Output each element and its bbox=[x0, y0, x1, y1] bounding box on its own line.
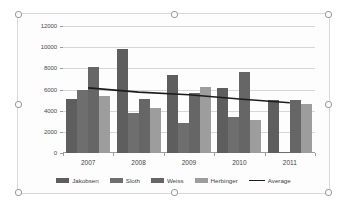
legend-label: Weiss bbox=[167, 177, 184, 184]
chart-object[interactable]: 020004000600080001000012000 200720082009… bbox=[17, 13, 330, 194]
resize-handle-top-center[interactable] bbox=[171, 11, 178, 18]
bar-weiss[interactable] bbox=[88, 67, 99, 153]
y-axis-tick-label: 6000 bbox=[44, 87, 57, 93]
bar-sloth[interactable] bbox=[77, 90, 88, 153]
y-axis-tick-label: 8000 bbox=[44, 65, 57, 71]
bar-herbinger[interactable] bbox=[99, 96, 110, 153]
category-axis-label: 2008 bbox=[113, 159, 163, 166]
y-axis-tick-label: 4000 bbox=[44, 108, 57, 114]
bar-group: 2009 bbox=[164, 26, 214, 153]
y-axis-tick-label: 10000 bbox=[41, 44, 57, 50]
bar-herbinger[interactable] bbox=[200, 87, 211, 153]
chart-legend[interactable]: JakobsenSlothWeissHerbingerAverage bbox=[18, 177, 329, 184]
category-axis-tick bbox=[214, 153, 215, 156]
resize-handle-middle-left[interactable] bbox=[15, 101, 22, 108]
legend-swatch-icon bbox=[110, 178, 123, 183]
bar-weiss[interactable] bbox=[139, 99, 150, 153]
legend-line-icon bbox=[249, 180, 265, 181]
bar-jakobsen[interactable] bbox=[117, 49, 128, 153]
legend-item-herbinger[interactable]: Herbinger bbox=[195, 177, 238, 184]
category-axis-tick bbox=[113, 153, 114, 156]
category-axis-label: 2010 bbox=[214, 159, 264, 166]
bar-weiss[interactable] bbox=[189, 93, 200, 153]
chart-area: 020004000600080001000012000 200720082009… bbox=[18, 14, 329, 193]
legend-item-average[interactable]: Average bbox=[249, 177, 291, 184]
resize-handle-top-right[interactable] bbox=[325, 11, 332, 18]
bar-herbinger[interactable] bbox=[250, 120, 261, 153]
category-axis-label: 2011 bbox=[265, 159, 315, 166]
bar-herbinger[interactable] bbox=[301, 104, 312, 153]
legend-swatch-icon bbox=[56, 178, 69, 183]
resize-handle-bottom-left[interactable] bbox=[15, 189, 22, 196]
bar-herbinger[interactable] bbox=[150, 108, 161, 154]
legend-label: Herbinger bbox=[211, 177, 238, 184]
bar-weiss[interactable] bbox=[290, 100, 301, 153]
bar-sloth[interactable] bbox=[279, 152, 290, 153]
bar-sloth[interactable] bbox=[228, 117, 239, 154]
legend-item-jakobsen[interactable]: Jakobsen bbox=[56, 177, 99, 184]
bar-group: 2010 bbox=[214, 26, 264, 153]
bar-jakobsen[interactable] bbox=[217, 88, 228, 153]
category-axis-tick bbox=[265, 153, 266, 156]
category-axis-tick bbox=[63, 153, 64, 156]
y-axis-tick-label: 0 bbox=[54, 150, 57, 156]
bar-jakobsen[interactable] bbox=[167, 75, 178, 153]
y-axis-tick-label: 12000 bbox=[41, 23, 57, 29]
category-axis-tick bbox=[315, 153, 316, 156]
category-axis-tick bbox=[164, 153, 165, 156]
bar-jakobsen[interactable] bbox=[66, 99, 77, 154]
legend-swatch-icon bbox=[151, 178, 164, 183]
legend-label: Sloth bbox=[126, 177, 140, 184]
plot-area[interactable]: 020004000600080001000012000 200720082009… bbox=[63, 26, 315, 153]
bar-group: 2008 bbox=[113, 26, 163, 153]
bar-sloth[interactable] bbox=[178, 123, 189, 153]
legend-item-weiss[interactable]: Weiss bbox=[151, 177, 184, 184]
legend-swatch-icon bbox=[195, 178, 208, 183]
resize-handle-bottom-right[interactable] bbox=[325, 189, 332, 196]
category-axis-label: 2007 bbox=[63, 159, 113, 166]
bar-group: 2011 bbox=[265, 26, 315, 153]
resize-handle-bottom-center[interactable] bbox=[171, 189, 178, 196]
legend-label: Average bbox=[268, 177, 291, 184]
resize-handle-top-left[interactable] bbox=[15, 11, 22, 18]
resize-handle-middle-right[interactable] bbox=[325, 101, 332, 108]
bar-sloth[interactable] bbox=[128, 113, 139, 153]
legend-label: Jakobsen bbox=[72, 177, 99, 184]
legend-item-sloth[interactable]: Sloth bbox=[110, 177, 140, 184]
bar-group: 2007 bbox=[63, 26, 113, 153]
bar-weiss[interactable] bbox=[239, 72, 250, 153]
bar-jakobsen[interactable] bbox=[268, 100, 279, 153]
category-axis-label: 2009 bbox=[164, 159, 214, 166]
y-axis-tick-label: 2000 bbox=[44, 129, 57, 135]
